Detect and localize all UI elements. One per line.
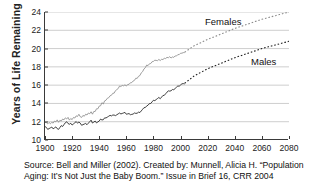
source-caption: Source: Bell and Miller (2002). Created … <box>24 160 326 183</box>
series-females-hist <box>45 53 185 124</box>
y-tick-label: 20 <box>32 44 41 54</box>
chart-canvas <box>45 12 289 140</box>
x-tick-label: 2040 <box>225 143 244 153</box>
x-tick-mark <box>45 136 46 139</box>
x-tick-label: 2080 <box>280 143 299 153</box>
x-tick-label: 1940 <box>90 143 109 153</box>
y-tick-mark <box>45 12 48 13</box>
life-expectancy-chart: Years of Life Remaining 1012141618202224… <box>0 0 329 158</box>
y-tick-mark <box>45 66 48 67</box>
y-tick-mark <box>45 103 48 104</box>
x-tick-label: 2000 <box>171 143 190 153</box>
x-tick-mark <box>262 136 263 139</box>
x-tick-mark <box>153 136 154 139</box>
y-tick-mark <box>45 30 48 31</box>
series-label-females: Females <box>205 16 241 27</box>
y-tick-label: 22 <box>32 25 41 35</box>
x-tick-label: 1900 <box>36 143 55 153</box>
series-lines <box>45 12 289 129</box>
x-tick-label: 1920 <box>63 143 82 153</box>
x-tick-mark <box>126 136 127 139</box>
y-tick-label: 18 <box>32 62 41 72</box>
x-tick-mark <box>235 136 236 139</box>
x-tick-label: 2020 <box>198 143 217 153</box>
chart-screenshot: Years of Life Remaining 1012141618202224… <box>0 0 329 192</box>
plot-area: 1012141618202224 19001920194019601980200… <box>44 12 288 140</box>
y-tick-label: 12 <box>32 117 41 127</box>
x-tick-mark <box>208 136 209 139</box>
caption-line-2: Aging: It’s Not Just the Baby Boom.” Iss… <box>24 171 326 182</box>
y-tick-mark <box>45 48 48 49</box>
y-axis-title: Years of Life Remaining <box>10 0 22 134</box>
series-label-males: Males <box>251 56 276 67</box>
x-tick-mark <box>181 136 182 139</box>
y-tick-label: 14 <box>32 98 41 108</box>
y-tick-label: 16 <box>32 80 41 90</box>
y-tick-mark <box>45 85 48 86</box>
x-tick-mark <box>99 136 100 139</box>
y-tick-mark <box>45 140 48 141</box>
y-tick-mark <box>45 121 48 122</box>
x-tick-label: 1980 <box>144 143 163 153</box>
y-tick-label: 24 <box>32 7 41 17</box>
x-tick-mark <box>289 136 290 139</box>
x-tick-label: 1960 <box>117 143 136 153</box>
x-tick-label: 2060 <box>252 143 271 153</box>
caption-line-1: Source: Bell and Miller (2002). Created … <box>24 160 326 171</box>
series-males-hist <box>45 84 185 130</box>
x-tick-mark <box>72 136 73 139</box>
